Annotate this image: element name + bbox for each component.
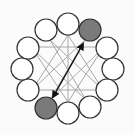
node [102, 58, 124, 80]
highlighted-node [79, 19, 101, 41]
node [96, 37, 118, 59]
chord-lines [32, 35, 103, 102]
node [57, 102, 79, 124]
node [79, 96, 101, 118]
node [35, 19, 57, 41]
diagram-canvas [0, 0, 135, 135]
node [96, 79, 118, 101]
node [17, 79, 39, 101]
node [57, 13, 79, 35]
ring-diagram [0, 0, 135, 135]
highlighted-node [35, 97, 57, 119]
node [17, 37, 39, 59]
node [11, 58, 33, 80]
